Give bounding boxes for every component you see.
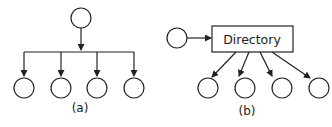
- child-node-a-1: [14, 78, 34, 98]
- figure-a-caption: (a): [72, 101, 89, 115]
- child-node-b-1: [198, 78, 218, 98]
- child-node-a-4: [124, 78, 144, 98]
- child-node-b-2: [235, 78, 255, 98]
- child-node-a-2: [51, 78, 71, 98]
- diagram-canvas: [0, 0, 332, 127]
- figure-b-caption: (b): [239, 104, 256, 118]
- child-node-b-4: [309, 78, 329, 98]
- child-node-b-3: [272, 78, 292, 98]
- child-node-a-3: [87, 78, 107, 98]
- root-node: [71, 8, 91, 28]
- source-node: [167, 28, 187, 48]
- directory-label: Directory: [223, 32, 281, 47]
